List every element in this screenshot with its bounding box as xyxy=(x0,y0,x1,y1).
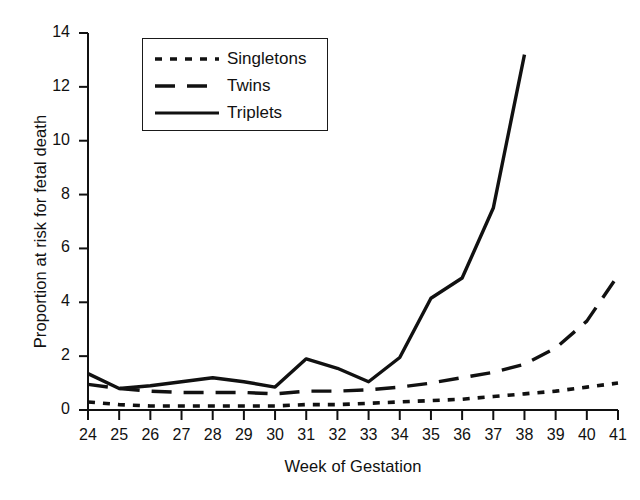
x-axis-tick-label: 39 xyxy=(541,426,571,444)
y-axis-ticks xyxy=(79,33,88,410)
x-axis-tick-label: 40 xyxy=(572,426,602,444)
x-axis-tick-label: 33 xyxy=(354,426,384,444)
x-axis-tick-label: 41 xyxy=(603,426,633,444)
x-axis-tick-label: 30 xyxy=(260,426,290,444)
legend-label: Singletons xyxy=(227,49,306,69)
series-line-singletons xyxy=(88,383,618,406)
x-axis-ticks xyxy=(88,410,618,420)
x-axis-tick-label: 38 xyxy=(509,426,539,444)
x-axis-tick-label: 26 xyxy=(135,426,165,444)
x-axis-tick-label: 31 xyxy=(291,426,321,444)
legend: SingletonsTwinsTriplets xyxy=(142,38,328,131)
x-axis-tick-label: 37 xyxy=(478,426,508,444)
x-axis-tick-label: 36 xyxy=(447,426,477,444)
x-axis-tick-label: 32 xyxy=(322,426,352,444)
x-axis-title: Week of Gestation xyxy=(88,457,618,476)
x-axis-tick-label: 29 xyxy=(229,426,259,444)
legend-label: Twins xyxy=(227,76,270,96)
y-axis-title: Proportion at risk for fetal death xyxy=(31,52,50,412)
x-axis-tick-label: 28 xyxy=(198,426,228,444)
x-axis-tick-label: 27 xyxy=(167,426,197,444)
legend-label: Triplets xyxy=(227,103,282,123)
x-axis-tick-label: 35 xyxy=(416,426,446,444)
legend-item-triplets[interactable]: Triplets xyxy=(143,99,329,126)
y-axis-tick-label: 14 xyxy=(30,23,70,41)
x-axis-tick-label: 34 xyxy=(385,426,415,444)
x-axis-tick-label: 25 xyxy=(104,426,134,444)
fetal-death-risk-chart: 02468101214 2425262728293031323334353637… xyxy=(0,0,640,500)
legend-swatch-solid-icon xyxy=(153,103,221,123)
x-axis-tick-label: 24 xyxy=(73,426,103,444)
legend-item-singletons[interactable]: Singletons xyxy=(143,45,329,72)
legend-item-twins[interactable]: Twins xyxy=(143,72,329,99)
legend-swatch-dashed-icon xyxy=(153,76,221,96)
legend-swatch-dotted-icon xyxy=(153,49,221,69)
